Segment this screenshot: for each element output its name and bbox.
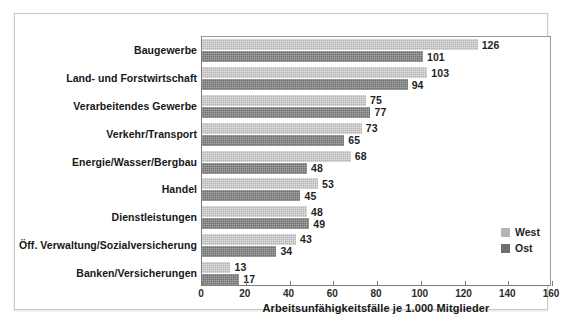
- x-axis-tick-mark: [552, 281, 553, 286]
- category-label: Energie/Wasser/Bergbau: [17, 156, 197, 168]
- bar-west: [202, 67, 427, 78]
- bar-row: 45: [202, 190, 552, 201]
- bar-value-label: 126: [482, 39, 500, 51]
- category-label: Dienstleistungen: [17, 211, 197, 223]
- bar-row: 68: [202, 151, 552, 162]
- bar-value-label: 65: [348, 134, 360, 146]
- x-axis-tick-label: 140: [499, 288, 516, 299]
- bar-value-label: 48: [311, 206, 323, 218]
- bar-row: 77: [202, 107, 552, 118]
- bar-value-label: 68: [355, 150, 367, 162]
- bar-value-label: 43: [300, 233, 312, 245]
- bar-ost: [202, 246, 276, 257]
- bar-row: 65: [202, 135, 552, 146]
- bar-ost: [202, 107, 370, 118]
- x-axis-tick-label: 80: [370, 288, 381, 299]
- bar-value-label: 73: [366, 122, 378, 134]
- figure-frame: BaugewerbeLand- und ForstwirtschaftVerar…: [14, 13, 548, 310]
- category-label: Land- und Forstwirtschaft: [17, 72, 197, 84]
- legend-label: West: [515, 226, 540, 238]
- bar-row: 53: [202, 178, 552, 189]
- chart-legend: WestOst: [501, 226, 561, 258]
- bar-row: 94: [202, 79, 552, 90]
- x-axis-tick-label: 160: [543, 288, 560, 299]
- x-axis-tick-label: 120: [455, 288, 472, 299]
- category-label: Baugewerbe: [17, 44, 197, 56]
- bar-ost: [202, 218, 309, 229]
- bar-value-label: 77: [374, 106, 386, 118]
- x-axis-tick-labels: 020406080100120140160: [201, 288, 551, 302]
- bar-row: 75: [202, 95, 552, 106]
- bar-value-label: 94: [412, 79, 424, 91]
- category-label: Verarbeitendes Gewerbe: [17, 100, 197, 112]
- category-label: Öff. Verwaltung/Sozialversicherung: [17, 239, 197, 251]
- bar-value-label: 13: [234, 261, 246, 273]
- bar-row: 126: [202, 39, 552, 50]
- bar-ost: [202, 163, 307, 174]
- x-axis-tick-label: 20: [239, 288, 250, 299]
- bar-west: [202, 262, 230, 273]
- x-axis-tick-mark: [421, 281, 422, 286]
- bar-ost: [202, 274, 239, 285]
- bar-value-label: 75: [370, 94, 382, 106]
- bar-value-label: 48: [311, 162, 323, 174]
- bar-value-label: 103: [431, 67, 449, 79]
- x-axis-tick-mark: [508, 281, 509, 286]
- bar-west: [202, 178, 318, 189]
- x-axis-tick-mark: [377, 281, 378, 286]
- bar-value-label: 53: [322, 178, 334, 190]
- bar-row: 103: [202, 67, 552, 78]
- category-label: Handel: [17, 183, 197, 195]
- bar-west: [202, 234, 296, 245]
- bar-ost: [202, 51, 423, 62]
- bar-value-label: 34: [280, 245, 292, 257]
- x-axis-tick-mark: [202, 281, 203, 286]
- x-axis-tick-label: 0: [198, 288, 204, 299]
- x-axis-tick-mark: [465, 281, 466, 286]
- bar-west: [202, 123, 362, 134]
- bar-value-label: 101: [427, 51, 445, 63]
- legend-swatch-icon: [501, 228, 510, 237]
- bar-west: [202, 151, 351, 162]
- bar-value-label: 49: [313, 218, 325, 230]
- bar-row: 13: [202, 262, 552, 273]
- x-axis-tick-mark: [290, 281, 291, 286]
- category-label: Banken/Versicherungen: [17, 267, 197, 279]
- x-axis-tick-mark: [333, 281, 334, 286]
- bar-west: [202, 39, 478, 50]
- plot-area: 126101103947577736568485345484943341317: [201, 36, 551, 286]
- bar-west: [202, 95, 366, 106]
- bar-series-container: 126101103947577736568485345484943341317: [202, 37, 550, 285]
- bar-row: 48: [202, 206, 552, 217]
- x-axis-tick-label: 40: [283, 288, 294, 299]
- bar-row: 49: [202, 218, 552, 229]
- bar-ost: [202, 135, 344, 146]
- bar-value-label: 45: [304, 190, 316, 202]
- legend-item-ost: Ost: [501, 242, 561, 254]
- x-axis-tick-label: 100: [411, 288, 428, 299]
- bar-row: 48: [202, 163, 552, 174]
- bar-row: 43: [202, 234, 552, 245]
- bar-ost: [202, 79, 408, 90]
- bar-ost: [202, 190, 300, 201]
- category-label: Verkehr/Transport: [17, 128, 197, 140]
- bar-row: 73: [202, 123, 552, 134]
- x-axis-tick-mark: [246, 281, 247, 286]
- legend-swatch-icon: [501, 244, 510, 253]
- bar-row: 101: [202, 51, 552, 62]
- legend-label: Ost: [515, 242, 533, 254]
- x-axis-tick-label: 60: [327, 288, 338, 299]
- bar-west: [202, 206, 307, 217]
- legend-item-west: West: [501, 226, 561, 238]
- bar-row: 34: [202, 246, 552, 257]
- x-axis-title: Arbeitsunfähigkeitsfälle je 1.000 Mitgli…: [201, 302, 551, 314]
- category-axis-labels: BaugewerbeLand- und ForstwirtschaftVerar…: [15, 36, 197, 286]
